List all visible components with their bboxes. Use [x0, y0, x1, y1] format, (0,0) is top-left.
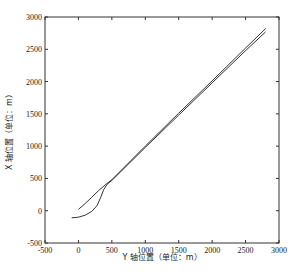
series-line-trajectory-1: [78, 29, 265, 210]
x-tick-label: 0: [76, 246, 80, 255]
y-tick-label: 0: [38, 207, 42, 216]
y-tick-label: 3000: [26, 13, 42, 22]
y-axis-ticks: -500050010001500200025003000: [26, 13, 279, 248]
y-tick-label: 2500: [26, 45, 42, 54]
x-axis-label: Y 轴位置（单位：m）: [121, 252, 201, 262]
y-axis-label: X 轴位置（单位：m）: [4, 90, 14, 170]
x-tick-label: 500: [106, 246, 118, 255]
x-axis-ticks: -500050010001500200025003000: [38, 17, 287, 255]
trajectory-chart: -500050010001500200025003000 -5000500100…: [0, 0, 300, 277]
x-tick-label: 2000: [204, 246, 220, 255]
y-tick-label: 1000: [26, 142, 42, 151]
series-line-trajectory-2: [72, 32, 266, 218]
y-tick-label: 1500: [26, 110, 42, 119]
data-series: [72, 29, 266, 218]
x-tick-label: 2500: [238, 246, 254, 255]
y-tick-label: 2000: [26, 78, 42, 87]
y-tick-label: 500: [30, 174, 42, 183]
y-tick-label: -500: [27, 239, 42, 248]
x-tick-label: 3000: [271, 246, 287, 255]
